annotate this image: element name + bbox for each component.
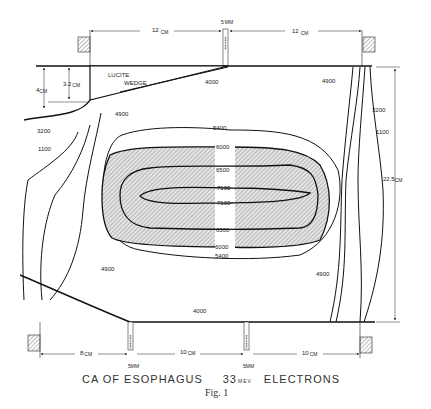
- label-3200-left: 3200: [37, 128, 51, 134]
- wedge-label-line1: LUCITE: [108, 72, 129, 78]
- dosimeter-strip-top: [223, 29, 228, 66]
- label-3200-right: 3200: [372, 107, 386, 113]
- collimator-block-top-left: [78, 37, 90, 52]
- label-6000-bottom: 6000: [215, 244, 229, 250]
- dim-label-bottom-gap-2: 5MM: [243, 363, 254, 369]
- dim-label-top-gap: 5MM: [221, 19, 233, 25]
- label-5400-bottom: 5400: [215, 253, 229, 259]
- bottom-body-surface: [20, 275, 375, 322]
- dim-label-left-height: 4CM: [36, 87, 47, 94]
- dim-label-bottom-gap-1: 5MM: [128, 363, 139, 369]
- isodose-3200-right: [358, 67, 365, 322]
- label-6500-top: 6500: [216, 167, 230, 173]
- collimator-block-bottom-right: [360, 337, 372, 353]
- dim-label-right-height: 22.5CM: [383, 176, 402, 183]
- dim-label-bottom-middle: 10CM: [180, 349, 195, 356]
- isodose-4900-inner-right: [330, 67, 353, 322]
- isodose-3200-left: [23, 132, 78, 300]
- collimator-block-top-right: [363, 37, 375, 52]
- label-1100-left: 1100: [38, 146, 52, 152]
- label-6000-top: 6000: [216, 144, 230, 150]
- label-4900-lower-right: 4900: [316, 271, 330, 277]
- label-6500-bottom: 6500: [216, 227, 230, 233]
- dosimeter-strip-bottom-left: [128, 322, 133, 350]
- dim-label-top-right: 12CM: [292, 28, 308, 36]
- wedge-label-line2: WEDGE: [124, 80, 147, 86]
- dim-label-top-left: 12CM: [152, 27, 168, 35]
- dosimeter-strip-bottom-right: [244, 322, 249, 350]
- figure-label: Fig. 1: [205, 387, 228, 398]
- label-1100-right: 1100: [376, 129, 390, 135]
- label-4900-lower-left: 4900: [101, 266, 115, 272]
- label-5400-top: 5400: [213, 125, 227, 131]
- dim-label-wedge-height: 3.2CM: [63, 81, 80, 88]
- label-4000-bottom: 4000: [193, 308, 207, 314]
- collimator-block-bottom-left: [28, 335, 40, 351]
- dim-label-bottom-left: 8CM: [80, 350, 92, 357]
- dosimeter-gap-stripe: [215, 146, 235, 249]
- label-4900-top-right: 4900: [322, 78, 336, 84]
- isodose-3200-left-2: [50, 113, 101, 300]
- label-4900-left-upper: 4900: [115, 111, 129, 117]
- isodose-right-outer: [364, 67, 383, 322]
- left-body-surface: [24, 100, 90, 120]
- figure-caption: CA OF ESOPHAGUS33MEVELECTRONS: [82, 373, 340, 385]
- isodose-diagram: 12CM 12CM 5MM LUCITE WEDGE 3.2CM 4CM 22.…: [0, 0, 431, 409]
- label-7100-bottom: 7100: [217, 200, 231, 206]
- dim-label-bottom-right: 10CM: [302, 350, 317, 357]
- label-4000-top: 4000: [205, 79, 219, 85]
- label-7100-top: 7100: [217, 185, 231, 191]
